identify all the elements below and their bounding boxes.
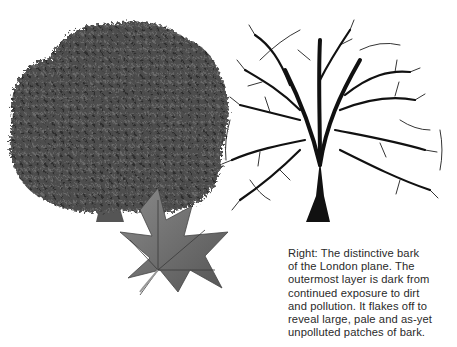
caption-line: Right: The distinctive bark bbox=[288, 247, 457, 260]
left-tree bbox=[10, 21, 229, 222]
illustration: Right: The distinctive bark of the Londo… bbox=[0, 0, 457, 347]
caption-line: of the London plane. The bbox=[288, 260, 457, 273]
right-tree bbox=[222, 20, 442, 222]
caption-line: and pollution. It flakes off to bbox=[288, 300, 457, 313]
caption-line: unpolluted patches of bark. bbox=[288, 326, 457, 339]
caption-line: continued exposure to dirt bbox=[288, 287, 457, 300]
caption-line: outermost layer is dark from bbox=[288, 273, 457, 286]
bark-caption: Right: The distinctive bark of the Londo… bbox=[288, 247, 457, 339]
caption-line: reveal large, pale and as-yet bbox=[288, 313, 457, 326]
